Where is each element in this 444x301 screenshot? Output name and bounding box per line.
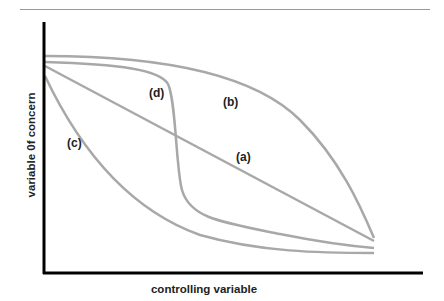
x-axis-label: controlling variable xyxy=(151,283,257,295)
y-axis-label: variable 0f concern xyxy=(25,93,37,198)
curve-b xyxy=(45,56,374,238)
curve-label-c: (c) xyxy=(67,136,82,150)
curve-label-a: (a) xyxy=(236,150,251,164)
chart-canvas xyxy=(0,0,444,301)
curve-label-d: (d) xyxy=(149,86,164,100)
curve-a xyxy=(45,66,374,241)
curve-c xyxy=(45,76,374,253)
curve-label-b: (b) xyxy=(223,95,238,109)
